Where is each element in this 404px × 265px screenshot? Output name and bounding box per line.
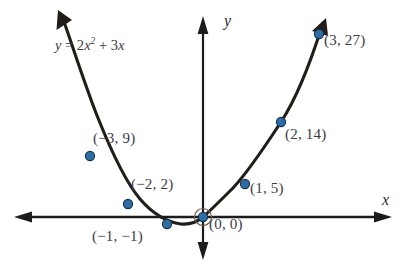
data-point-1-5	[240, 179, 249, 188]
data-point-n1-n1	[162, 219, 171, 228]
y-axis	[198, 16, 209, 260]
point-label-n3-9: (−3, 9)	[93, 130, 135, 147]
point-label-n2-2: (−2, 2)	[131, 176, 173, 193]
data-point-n3-9	[85, 151, 94, 160]
point-label-n1-n1: (−1, −1)	[92, 228, 143, 245]
point-label-2-14: (2, 14)	[285, 126, 326, 143]
data-point-3-27	[314, 29, 323, 38]
data-point-0-0	[198, 212, 207, 221]
equation-annotation: y = 2x2 + 3x	[55, 36, 124, 54]
point-label-0-0: (0, 0)	[209, 216, 243, 233]
data-point-n2-2	[123, 199, 132, 208]
point-label-1-5: (1, 5)	[250, 180, 284, 197]
axis-label-x: x	[382, 191, 389, 209]
graph-figure: y = 2x2 + 3x y x (3, 27) (2, 14) (1, 5) …	[0, 0, 404, 265]
point-label-3-27: (3, 27)	[324, 32, 365, 49]
axis-label-y: y	[224, 12, 231, 30]
